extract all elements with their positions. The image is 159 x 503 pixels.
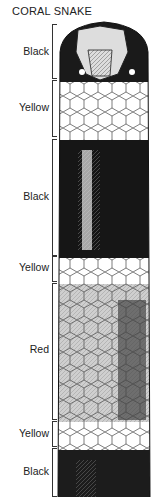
snake-illustration [0,0,159,503]
band-black-3 [50,450,159,503]
band-black-2 [50,140,159,258]
